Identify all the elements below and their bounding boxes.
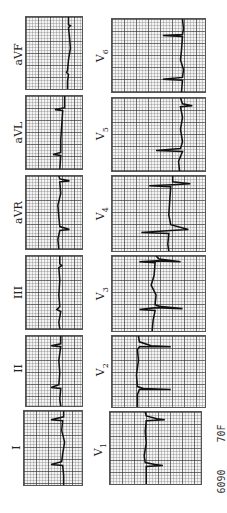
lead-label-v1-letter: V (92, 448, 105, 456)
ecg-panel-v2 (111, 335, 206, 408)
ecg-panel-v6 (111, 18, 206, 93)
lead-label-v5-letter: V (94, 132, 107, 140)
lead-label-avf: aVF (12, 40, 25, 70)
lead-label-v2-letter: V (94, 368, 107, 376)
lead-label-v5: V5 (94, 119, 109, 149)
ecg-trace-avr (26, 176, 82, 249)
lead-label-v1-sub: 1 (99, 443, 108, 448)
lead-label-v6: V6 (94, 41, 109, 71)
lead-label-avr: aVR (12, 198, 25, 228)
ecg-trace-iii (26, 256, 82, 329)
ecg-panel-v5 (111, 97, 206, 172)
ecg-trace-ii (26, 336, 82, 406)
lead-label-avl: aVL (12, 118, 25, 148)
ecg-trace-v5 (112, 98, 205, 171)
lead-label-v4-sub: 4 (101, 207, 110, 212)
lead-label-v2: V2 (94, 355, 109, 385)
lead-label-ii: II (12, 354, 25, 384)
lead-label-v4-letter: V (94, 212, 107, 220)
lead-label-v6-sub: 6 (101, 49, 110, 54)
ecg-trace-avf (26, 17, 82, 89)
ecg-trace-v6 (112, 19, 205, 92)
ecg-trace-i (24, 411, 82, 485)
lead-label-v3: V3 (94, 279, 109, 309)
ecg-panel-i (23, 410, 83, 486)
ecg-trace-avl (26, 96, 82, 169)
ecg-panel-avr (25, 175, 83, 250)
lead-label-v3-sub: 3 (101, 287, 110, 292)
ecg-panel-avl (25, 95, 83, 170)
lead-label-v6-letter: V (94, 54, 107, 62)
ecg-panel-ii (25, 335, 83, 407)
ecg-trace-v2 (112, 336, 205, 407)
lead-label-iii: III (12, 278, 25, 308)
ecg-panel-v4 (111, 175, 206, 252)
lead-label-v4: V4 (94, 199, 109, 229)
ecg-trace-v1 (110, 412, 201, 484)
ecg-panel-v3 (111, 255, 206, 332)
record-id: 6090 (216, 462, 227, 502)
ecg-trace-v3 (112, 256, 205, 331)
lead-label-v2-sub: 2 (101, 363, 110, 368)
lead-label-i: I (10, 433, 23, 463)
ecg-panel-v1 (109, 411, 202, 485)
ecg-panel-avf (25, 16, 83, 90)
lead-label-v3-letter: V (94, 292, 107, 300)
patient-info: 70F (216, 414, 227, 454)
lead-label-v1: V1 (92, 435, 107, 465)
ecg-panel-iii (25, 255, 83, 330)
ecg-trace-v4 (112, 176, 205, 251)
lead-label-v5-sub: 5 (101, 127, 110, 132)
